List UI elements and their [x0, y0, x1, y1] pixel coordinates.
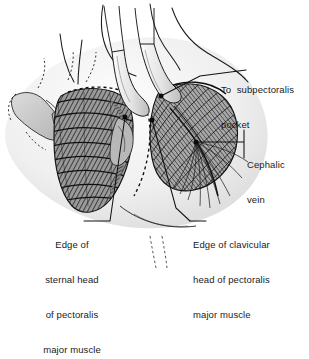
- callout-cephalic-line2: vein: [247, 194, 285, 206]
- anchor-dot-clavicular: [150, 118, 155, 123]
- callout-sternal-line1: Edge of: [24, 239, 120, 251]
- callout-sternal-line3: of pectoralis: [24, 309, 120, 321]
- callout-clavicular-head: Edge of clavicular head of pectoralis ma…: [193, 216, 270, 344]
- callout-cephalic-line1: Cephalic: [247, 159, 285, 171]
- callout-sternal-line4: major muscle: [24, 344, 120, 356]
- callout-subpectoralis-line1: To subpectoralis: [221, 84, 294, 96]
- anchor-dot-subpectoralis: [159, 94, 164, 99]
- callout-clavicular-line1: Edge of clavicular: [193, 239, 270, 251]
- callout-clavicular-line3: major muscle: [193, 309, 270, 321]
- callout-subpectoralis-line2: pocket: [221, 119, 294, 131]
- callout-sternal-line2: sternal head: [24, 274, 120, 286]
- anchor-dot-sternal: [123, 115, 128, 120]
- callout-sternal-head: Edge of sternal head of pectoralis major…: [24, 216, 120, 359]
- callout-clavicular-line2: head of pectoralis: [193, 274, 270, 286]
- anchor-dot-cephalic: [194, 140, 199, 145]
- callout-cephalic-vein: Cephalic vein: [247, 136, 285, 229]
